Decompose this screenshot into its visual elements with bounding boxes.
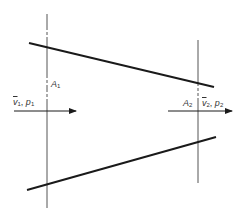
pressure-2-subscript: 2 [220,102,223,108]
pressure-1-subscript: 1 [31,101,34,107]
label-state-1: v1, p1 [13,98,34,107]
area-1-subscript: 1 [57,83,60,89]
area-2-subscript: 2 [189,102,192,108]
label-area-2: A2 [183,99,192,108]
duct-diagram [0,0,242,218]
lower-wall [27,137,216,190]
label-state-2: v2, p2 [202,99,223,108]
label-area-1: A1 [51,80,60,89]
